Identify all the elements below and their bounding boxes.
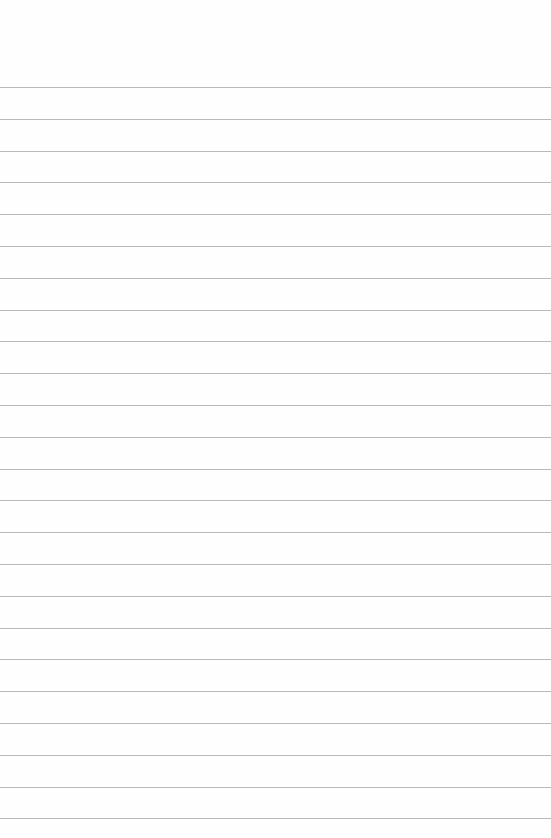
ruled-line [0, 691, 551, 692]
ruled-line [0, 119, 551, 120]
ruled-line [0, 151, 551, 152]
ruled-line [0, 628, 551, 629]
ruled-line [0, 596, 551, 597]
ruled-line [0, 532, 551, 533]
ruled-line [0, 787, 551, 788]
ruled-line [0, 405, 551, 406]
ruled-line [0, 564, 551, 565]
ruled-line [0, 437, 551, 438]
ruled-line [0, 755, 551, 756]
ruled-line [0, 214, 551, 215]
ruled-line [0, 469, 551, 470]
ruled-line [0, 246, 551, 247]
ruled-line [0, 341, 551, 342]
ruled-line [0, 310, 551, 311]
lined-paper-sheet [0, 0, 551, 838]
ruled-line [0, 818, 551, 819]
ruled-line [0, 723, 551, 724]
ruled-line [0, 182, 551, 183]
ruled-line [0, 500, 551, 501]
ruled-line [0, 278, 551, 279]
ruled-line [0, 87, 551, 88]
ruled-line [0, 373, 551, 374]
ruled-line [0, 659, 551, 660]
